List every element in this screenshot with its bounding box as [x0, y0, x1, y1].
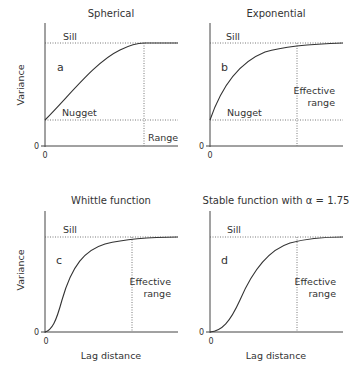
panel-a-y-zero: 0: [34, 142, 39, 151]
variogram-figure: Spherical Variance Sill a Nugget Range 0…: [0, 0, 358, 378]
panel-a-nugget-label: Nugget: [62, 107, 97, 118]
panel-a-range-label: Range: [148, 132, 178, 143]
panel-b-effective-range-label-2: range: [307, 97, 335, 108]
panel-a-sill-label: Sill: [63, 31, 77, 42]
panel-a-x-zero: 0: [42, 151, 47, 160]
panel-d-title: Stable function with α = 1.75: [203, 195, 350, 206]
panel-a-spherical: Spherical Variance Sill a Nugget Range 0…: [15, 8, 178, 160]
panel-c-title: Whittle function: [71, 195, 151, 206]
panel-b-x-zero: 0: [207, 151, 212, 160]
panel-d-x-axis-label: Lag distance: [246, 350, 307, 361]
panel-a-letter: a: [57, 61, 64, 74]
panel-a-title: Spherical: [88, 8, 134, 19]
panel-b-effective-range-label-1: Effective: [294, 85, 336, 96]
panel-c-y-zero: 0: [34, 328, 39, 337]
panel-b-y-zero: 0: [199, 142, 204, 151]
panel-d-letter: d: [221, 254, 228, 267]
panel-b-title: Exponential: [246, 8, 305, 19]
panel-b-letter: b: [221, 61, 228, 74]
panel-d-sill-label: Sill: [227, 224, 241, 235]
panel-c-y-axis-label: Variance: [15, 249, 26, 290]
panel-d-x-zero: 0: [208, 337, 213, 346]
panel-c-x-zero: 0: [43, 337, 48, 346]
panel-a-y-axis-label: Variance: [15, 64, 26, 105]
panel-d-effective-range-label-2: range: [308, 288, 336, 299]
panel-b-sill-label: Sill: [226, 31, 240, 42]
panel-c-effective-range-label-2: range: [143, 288, 171, 299]
panel-b-nugget-label: Nugget: [227, 107, 262, 118]
panel-c-whittle: Whittle function Variance Sill c Effecti…: [15, 195, 178, 361]
panel-c-letter: c: [56, 254, 62, 267]
panel-d-y-zero: 0: [199, 328, 204, 337]
panel-c-x-axis-label: Lag distance: [81, 350, 142, 361]
panel-d-stable: Stable function with α = 1.75 Sill d Eff…: [199, 195, 350, 361]
panel-b-exponential: Exponential Sill b Nugget Effective rang…: [199, 8, 343, 160]
panel-d-effective-range-label-1: Effective: [295, 276, 337, 287]
panel-c-sill-label: Sill: [63, 224, 77, 235]
panel-c-effective-range-label-1: Effective: [130, 276, 172, 287]
